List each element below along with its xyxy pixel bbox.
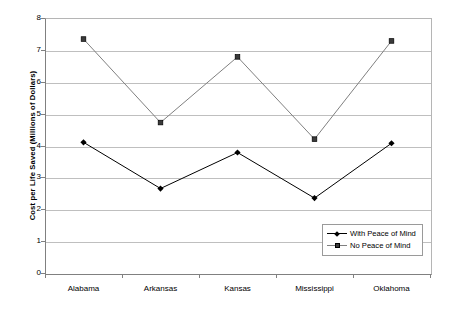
legend-item[interactable]: No Peace of Mind [326,240,418,252]
gridline [46,83,431,84]
line-chart: Cost per Life Saved (Millions of Dollars… [0,0,451,310]
legend-item[interactable]: With Peace of Mind [326,228,418,240]
legend-label: No Peace of Mind [348,240,410,252]
x-axis-ticks: AlabamaArkansasKansasMississippiOklahoma [45,274,431,304]
x-tick-mark [276,274,277,278]
y-tick-label: 3 [3,173,41,181]
x-tick-mark [199,274,200,278]
x-tick-mark [45,274,46,278]
x-tick-mark [430,274,431,278]
x-tick-label: Alabama [68,284,100,294]
y-axis-ticks: 012345678 [0,18,41,274]
legend-swatch [326,240,348,252]
y-tick-label: 7 [3,46,41,54]
y-tick-label: 2 [3,205,41,213]
y-tick-label: 6 [3,78,41,86]
y-tick-label: 0 [3,269,41,277]
y-tick-label: 4 [3,142,41,150]
legend-marker-square [335,243,340,248]
y-tick-label: 5 [3,110,41,118]
x-tick-mark [353,274,354,278]
y-tick-label: 1 [3,237,41,245]
x-tick-label: Mississippi [295,284,334,294]
x-tick-label: Arkansas [144,284,177,294]
x-tick-label: Oklahoma [373,284,409,294]
legend-swatch [326,228,348,240]
x-tick-mark [122,274,123,278]
y-tick-label: 8 [3,14,41,22]
chart-legend: With Peace of MindNo Peace of Mind [322,224,423,256]
legend-label: With Peace of Mind [348,228,416,240]
gridline [46,51,431,52]
gridline [46,147,431,148]
gridline [46,178,431,179]
x-tick-label: Kansas [224,284,251,294]
gridline [46,210,431,211]
gridline [46,115,431,116]
